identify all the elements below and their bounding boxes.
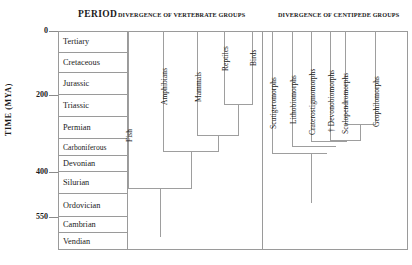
period-row-vendian: Vendian [58,233,127,250]
centipede-root-stem [311,153,312,203]
vertebrate-branch-birds [252,31,253,104]
period-label: Jurassic [63,79,89,88]
centipede-node-pleurostigmophora [292,146,336,147]
period-row-tertiary: Tertiary [58,31,127,53]
vertebrate-taxon-label-reptiles: Reptiles [221,46,230,71]
column-header-centipede-groups: DIVERGENCE OF CENTIPEDE GROUPS [278,11,399,18]
period-row-jurassic: Jurassic [58,73,127,95]
column-header-vertebrate-groups: DIVERGENCE OF VERTEBRATE GROUPS [118,11,245,18]
y-axis-tick-550: 550 [14,212,48,221]
centipede-taxon-label-devonobiomorphs: † Devonobiomorphs [327,70,336,132]
column-header-period: PERIOD [78,9,117,19]
centipede-taxon-label-scolopendromorphs: Scolopendromorphs [341,73,350,134]
centipede-taxon-label-geophilomorphs: Geophilomorphs [372,76,381,127]
period-label: Cretaceous [63,58,100,67]
vertebrate-taxon-label-mammals: Mammals [194,72,203,102]
period-row-cretaceous: Cretaceous [58,53,127,73]
y-axis-tick-400: 400 [14,167,48,176]
centipede-stem-epimorpha [360,124,361,140]
period-label: Tertiary [63,37,89,46]
vertebrate-stem-sauropsids [238,104,239,135]
vertebrate-stem-amniotes [218,135,219,151]
diagram-canvas: PERIOD DIVERGENCE OF VERTEBRATE GROUPS D… [0,0,412,265]
y-tick-mark-550 [49,217,58,218]
y-tick-mark-0 [49,31,58,32]
centipede-taxon-label-lithobiomorphs: Lithobiomorphs [289,75,298,124]
y-tick-mark-200 [49,95,58,96]
vertebrate-branch-fish [128,31,129,188]
centipede-node-phylactometria [311,141,347,142]
y-tick-mark-400 [49,172,58,173]
y-axis-tick-200: 200 [14,90,48,99]
centipede-taxon-label-scutigeromorphs: Scutigeromorphs [269,77,278,129]
period-label: Vendian [63,237,90,246]
period-row-triassic: Triassic [58,95,127,117]
period-label: Carboniferous [63,143,106,152]
vertebrate-taxon-label-birds: Birds [249,49,258,66]
period-label: Permian [63,123,91,132]
panel-divider [262,31,263,250]
period-label: Ordovician [63,201,100,210]
y-axis-tick-0: 0 [14,26,48,35]
period-row-cambrian: Cambrian [58,217,127,233]
period-label: Cambrian [63,220,96,229]
period-label: Silurian [63,178,89,187]
vertebrate-taxon-label-amphibians: Amphibians [160,68,169,105]
period-label: Devonian [63,159,95,168]
centipede-taxon-label-craterostigmomorphs: Craterostigmomorphs [308,69,317,135]
period-row-ordovician: Ordovician [58,194,127,217]
vertebrate-taxon-label-fish: Fish [125,129,134,142]
y-axis-label: TIME (MYA) [4,80,13,140]
centipede-node-root [272,153,327,154]
period-row-carboniferous: Carboniferous [58,139,127,156]
vertebrate-root-stem [160,188,161,237]
vertebrate-stem-tetrapods [191,151,192,188]
period-label: Triassic [63,101,89,110]
period-row-permian: Permian [58,117,127,139]
period-row-devonian: Devonian [58,156,127,172]
period-row-silurian: Silurian [58,172,127,194]
